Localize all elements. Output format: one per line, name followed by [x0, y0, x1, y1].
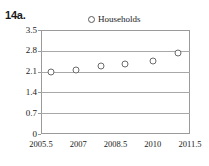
y-tick-label: 2.8 [7, 45, 37, 55]
gridline-y [41, 113, 190, 114]
y-tick-label: 2.1 [7, 66, 37, 76]
plot-frame [41, 30, 190, 134]
figure-label: 14a. [5, 9, 26, 21]
x-tick-label: 2010 [131, 139, 175, 149]
gridline-y [41, 72, 190, 73]
data-point [97, 62, 104, 69]
chart-figure: 14a. Households 00.71.42.12.83.5 2005.52… [0, 0, 209, 166]
legend-marker-icon [88, 16, 95, 23]
x-tick-label: 2011.5 [168, 139, 209, 149]
legend-item-label: Households [98, 15, 141, 24]
data-point [122, 60, 129, 67]
x-tick-label: 2008.5 [94, 139, 138, 149]
y-tick-label: 1.4 [7, 87, 37, 97]
chart-legend: Households [88, 15, 141, 24]
data-point [149, 57, 156, 64]
y-tick-label: 0.7 [7, 108, 37, 118]
data-point [174, 49, 181, 56]
data-point [72, 67, 79, 74]
x-tick-label: 2005.5 [19, 139, 63, 149]
gridline-y [41, 92, 190, 93]
y-tick-mark [38, 134, 41, 135]
data-point [47, 68, 54, 75]
x-tick-label: 2007 [56, 139, 100, 149]
plot-area [41, 30, 190, 134]
y-tick-label: 0 [7, 129, 37, 139]
y-tick-label: 3.5 [7, 25, 37, 35]
gridline-y [41, 51, 190, 52]
